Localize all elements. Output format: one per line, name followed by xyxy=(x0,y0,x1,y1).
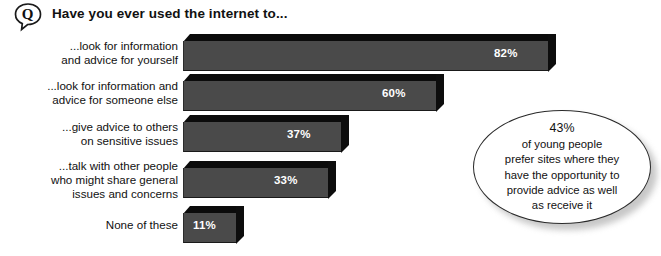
bar-value-0: 82% xyxy=(494,47,518,59)
question-speech-bubble-icon: Q xyxy=(13,2,43,32)
bar-value-1: 60% xyxy=(382,87,406,99)
callout-annotation: 43% of young people prefer sites where t… xyxy=(473,110,657,230)
bar-front-face-3 xyxy=(183,168,328,198)
chart-header: Q Have you ever used the internet to... xyxy=(0,0,661,34)
bar-value-4: 11% xyxy=(193,219,216,231)
bar-side-face-3 xyxy=(328,161,336,199)
category-label-4: None of these xyxy=(0,218,178,232)
bar-side-face-2 xyxy=(341,115,349,153)
bar-side-face-1 xyxy=(436,74,444,112)
category-label-2: ...give advice to others on sensitive is… xyxy=(0,120,178,148)
category-label-0: ...look for information and advice for y… xyxy=(0,39,178,67)
bar-side-face-4 xyxy=(236,206,244,244)
category-label-1: ...look for information and advice for s… xyxy=(0,79,178,107)
category-label-3: ...talk with other people who might shar… xyxy=(0,159,178,201)
svg-text:Q: Q xyxy=(22,6,34,22)
callout-text: 43% of young people prefer sites where t… xyxy=(473,110,651,224)
bar-value-3: 33% xyxy=(274,174,298,186)
bar-side-face-0 xyxy=(548,34,556,72)
bar-value-2: 37% xyxy=(287,128,311,140)
page-title: Have you ever used the internet to... xyxy=(52,6,288,21)
bar-front-face-2 xyxy=(183,122,341,152)
callout-percent: 43% xyxy=(550,121,575,137)
callout-body: of young people prefer sites where they … xyxy=(505,137,620,213)
chart-page: Q Have you ever used the internet to... … xyxy=(0,0,661,256)
